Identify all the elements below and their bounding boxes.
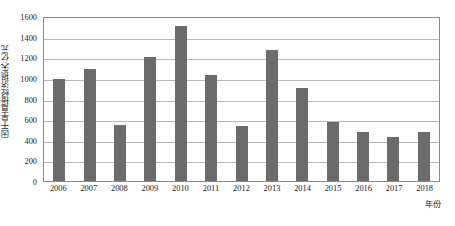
bar-2016	[357, 132, 369, 182]
bar-2010	[175, 26, 187, 181]
bar-slot	[348, 18, 378, 181]
bar-2011	[205, 75, 217, 181]
x-axis-tick-label: 2018	[409, 184, 440, 198]
y-axis-tick-label: 1400	[20, 33, 37, 42]
bar-slot	[287, 18, 317, 181]
x-axis-tick-label: 2011	[196, 184, 227, 198]
bar-2017	[387, 137, 399, 181]
bar-2013	[266, 50, 278, 181]
x-axis-tick-label: 2007	[74, 184, 105, 198]
x-axis-tick-label: 2009	[135, 184, 166, 198]
y-axis-tick-label: 0	[33, 178, 37, 187]
bar-slot	[105, 18, 135, 181]
plot-area	[43, 17, 440, 182]
bar-2014	[296, 88, 308, 181]
y-axis-tick-label: 1000	[20, 74, 37, 83]
bar-slot	[257, 18, 287, 181]
x-axis-tick-label: 2015	[318, 184, 349, 198]
bar-2007	[84, 69, 96, 181]
bar-slot	[74, 18, 104, 181]
x-axis-tick-label: 2008	[104, 184, 135, 198]
bar-2008	[114, 125, 126, 181]
x-axis-tick-label: 2014	[287, 184, 318, 198]
bar-slot	[44, 18, 74, 181]
x-axis-tick-label: 2006	[43, 184, 74, 198]
y-axis-tick-label: 800	[24, 95, 37, 104]
x-axis-tick-labels: 2006200720082009201020112012201320142015…	[43, 184, 440, 198]
y-axis-tick-label: 400	[24, 136, 37, 145]
y-axis-tick-label: 1200	[20, 54, 37, 63]
y-axis-tick-labels: 02004006008001000120014001600	[14, 17, 40, 182]
x-axis-title: 年份	[0, 197, 441, 209]
bar-slot	[226, 18, 256, 181]
y-axis-tick-label: 1600	[20, 13, 37, 22]
y-axis-title-text: 因干旱直接经济损失/亿元	[3, 45, 11, 138]
x-axis-tick-label: 2013	[257, 184, 288, 198]
bar-slot	[409, 18, 439, 181]
y-axis-title: 因干旱直接经济损失/亿元	[0, 0, 14, 182]
bar-slot	[378, 18, 408, 181]
bar-2009	[144, 57, 156, 181]
bar-slot	[196, 18, 226, 181]
bar-2015	[327, 122, 339, 181]
x-axis-tick-label: 2010	[165, 184, 196, 198]
x-axis-tick-label: 2016	[348, 184, 379, 198]
x-axis-tick-label: 2012	[226, 184, 257, 198]
bars-layer	[44, 18, 439, 181]
bar-slot	[135, 18, 165, 181]
y-axis-tick-label: 600	[24, 116, 37, 125]
bar-slot	[318, 18, 348, 181]
bar-2018	[418, 132, 430, 182]
bar-slot	[166, 18, 196, 181]
y-axis-tick-label: 200	[24, 157, 37, 166]
bar-2012	[236, 126, 248, 181]
bar-chart: 因干旱直接经济损失/亿元 020040060080010001200140016…	[0, 0, 455, 226]
bar-2006	[53, 79, 65, 181]
x-axis-tick-label: 2017	[379, 184, 410, 198]
